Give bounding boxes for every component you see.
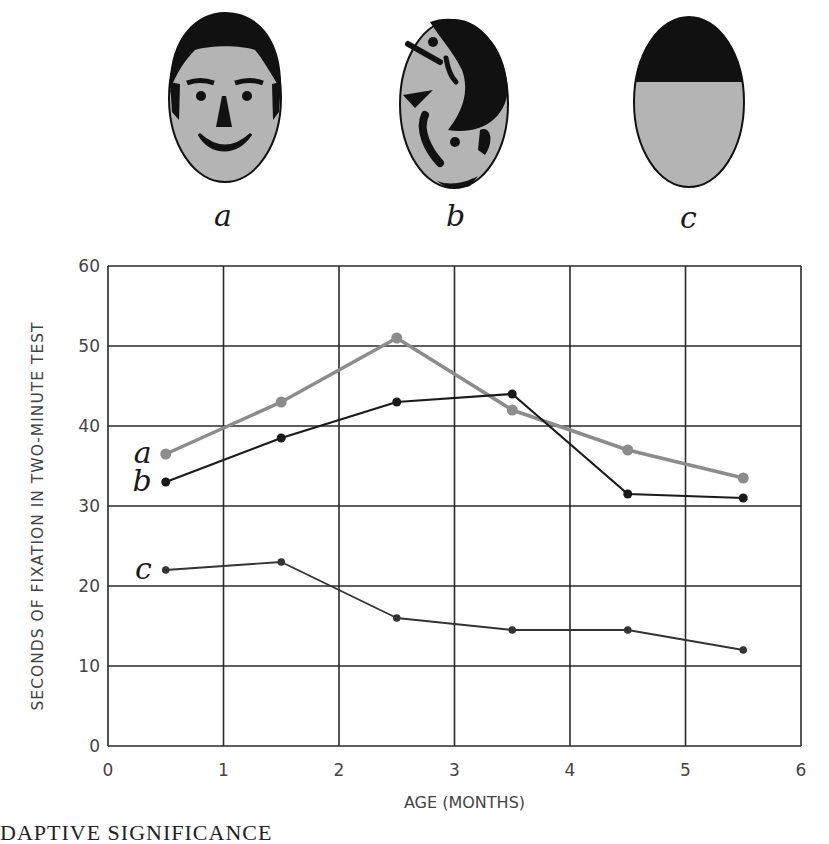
- data-point-b: [161, 478, 170, 487]
- data-point-b: [508, 390, 517, 399]
- face-b-label: b: [446, 198, 465, 233]
- face-a-icon: [169, 12, 281, 182]
- x-tick-label: 5: [680, 760, 691, 780]
- data-point-a: [160, 449, 171, 460]
- stimulus-faces: a b c: [0, 0, 829, 245]
- data-point-b: [392, 398, 401, 407]
- data-point-b: [277, 434, 286, 443]
- data-point-c: [277, 558, 285, 566]
- data-point-a: [276, 397, 287, 408]
- data-point-c: [508, 626, 516, 634]
- x-tick-label: 2: [334, 760, 345, 780]
- data-point-c: [624, 626, 632, 634]
- x-tick-label: 6: [796, 760, 807, 780]
- y-tick-label: 40: [78, 416, 100, 436]
- y-tick-label: 10: [78, 656, 100, 676]
- series-label-c: c: [135, 551, 152, 586]
- fixation-chart: 01234560102030405060AGE (MONTHS)SECONDS …: [0, 240, 829, 834]
- y-axis-label: SECONDS OF FIXATION IN TWO-MINUTE TEST: [29, 321, 47, 710]
- x-tick-label: 3: [449, 760, 460, 780]
- face-c-icon: [630, 10, 750, 187]
- y-tick-label: 30: [78, 496, 100, 516]
- data-point-b: [623, 490, 632, 499]
- data-point-c: [393, 614, 401, 622]
- data-point-a: [391, 333, 402, 344]
- data-point-a: [507, 405, 518, 416]
- face-b-icon: [400, 19, 508, 188]
- data-point-a: [738, 473, 749, 484]
- x-tick-label: 0: [103, 760, 114, 780]
- faces-illustration: [0, 0, 829, 245]
- face-a-label: a: [214, 198, 232, 233]
- figure-caption: DAPTIVE SIGNIFICANCE: [0, 820, 272, 844]
- y-tick-label: 60: [78, 256, 100, 276]
- data-point-c: [739, 646, 747, 654]
- x-tick-label: 1: [218, 760, 229, 780]
- data-point-c: [162, 566, 170, 574]
- series-label-b: b: [133, 463, 152, 498]
- y-tick-label: 50: [78, 336, 100, 356]
- data-point-a: [622, 445, 633, 456]
- y-tick-label: 0: [89, 736, 100, 756]
- y-tick-label: 20: [78, 576, 100, 596]
- x-tick-label: 4: [565, 760, 576, 780]
- face-c-label: c: [680, 200, 697, 235]
- x-axis-label: AGE (MONTHS): [404, 793, 525, 812]
- data-point-b: [739, 494, 748, 503]
- line-chart: 01234560102030405060AGE (MONTHS)SECONDS …: [0, 240, 829, 834]
